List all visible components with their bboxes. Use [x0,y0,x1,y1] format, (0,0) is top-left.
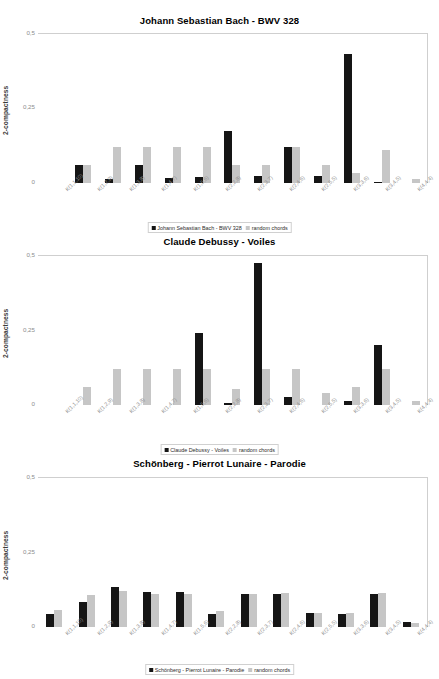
bar-series-schoenberg [38,478,427,627]
bar-group-last[interactable] [397,256,427,405]
bar-group-K3-3-6[interactable] [330,478,362,627]
bar-dark-K3-4-5[interactable] [344,54,352,183]
bar-dark-K2-2-8[interactable] [195,333,203,405]
bar-dark-K3-3-6[interactable] [314,176,322,183]
bar-light-K3-3-6[interactable] [346,613,354,627]
legend-swatch-dark-icon [164,448,168,452]
legend-swatch-light-icon [248,668,252,672]
bar-group-K1-3-8[interactable] [103,478,135,627]
bar-series-debussy [38,256,427,405]
bar-group-K1-3-8[interactable] [98,256,128,405]
bar-group-K2-5-5[interactable] [297,478,329,627]
bar-group-K2-4-6[interactable] [247,256,277,405]
bar-light-K1-5-6[interactable] [184,594,192,627]
bar-group-K1-5-6[interactable] [168,478,200,627]
x-axis-ticks-schoenberg: K(1,1,10) K(1,2,9) K(1,3,8) K(1,4,7) K(1… [38,630,427,664]
bar-light-K4-4-4[interactable] [382,369,390,405]
bar-dark-K2-5-5[interactable] [284,397,292,405]
legend-swatch-dark-icon [151,226,155,230]
bar-light-K4-4-4[interactable] [382,150,390,183]
bar-group-K2-3-7[interactable] [233,478,265,627]
bar-light-K1-2-9[interactable] [83,165,91,183]
legend-swatch-dark-icon [149,668,153,672]
bar-light-last[interactable] [412,179,420,183]
bar-dark-K4-4-4[interactable] [403,622,411,627]
bar-group-K4-4-4[interactable] [367,34,397,183]
bar-group-K2-3-7[interactable] [218,34,248,183]
bar-group-K4-4-4[interactable] [395,478,427,627]
bar-light-K1-2-9[interactable] [83,387,91,405]
bar-group-K2-2-8[interactable] [188,256,218,405]
bar-group-K1-1-10[interactable] [38,256,68,405]
legend-label-series: Johann Sebastian Bach - BWV 328 [157,225,242,231]
bar-dark-K2-4-6[interactable] [273,594,281,627]
bar-dark-K3-3-6[interactable] [338,614,346,627]
chart-panel-schoenberg: Schönberg - Pierrot Lunaire - Parodie 2-… [0,458,439,679]
legend-label-series: Claude Debussy - Voiles [170,447,229,453]
bar-light-K4-4-4[interactable] [411,623,419,627]
bar-group-K2-4-6[interactable] [247,34,277,183]
bar-dark-K4-4-4[interactable] [374,182,382,183]
bar-group-K1-3-8[interactable] [98,34,128,183]
bar-light-K1-2-9[interactable] [87,595,95,627]
bar-light-K1-1-10[interactable] [54,610,62,627]
bar-series-bach [38,34,427,183]
bar-group-K2-5-5[interactable] [277,34,307,183]
bar-dark-K1-1-10[interactable] [46,614,54,627]
bar-group-K3-4-5[interactable] [337,34,367,183]
bar-light-K2-3-7[interactable] [249,594,257,627]
bar-group-K3-3-6[interactable] [307,34,337,183]
bar-group-K2-2-8[interactable] [200,478,232,627]
bar-group-K4-4-4[interactable] [367,256,397,405]
bar-light-K2-2-8[interactable] [216,611,224,627]
bar-dark-K2-4-6[interactable] [254,263,262,405]
y-tick-0: 0 [32,623,35,629]
bar-group-K1-4-7[interactable] [128,34,158,183]
y-axis-label-bach: 2-compactness [2,86,9,135]
bar-light-K1-4-7[interactable] [151,594,159,627]
bar-group-K1-5-6[interactable] [158,34,188,183]
legend-item-series: Schönberg - Pierrot Lunaire - Parodie [149,667,245,673]
bar-group-K3-4-5[interactable] [362,478,394,627]
bar-dark-K3-4-5[interactable] [344,401,352,405]
plot-area-debussy [38,255,428,405]
bar-group-K1-2-9[interactable] [68,256,98,405]
bar-dark-K2-3-7[interactable] [224,131,232,183]
bar-group-last[interactable] [397,34,427,183]
x-axis-ticks-bach: K(1,1,10) K(1,2,9) K(1,3,8) K(1,4,7) K(1… [38,186,427,220]
legend-label-series: Schönberg - Pierrot Lunaire - Parodie [155,667,245,673]
bar-group-K3-4-5[interactable] [337,256,367,405]
bar-group-K1-1-10[interactable] [38,478,70,627]
bar-group-K2-4-6[interactable] [265,478,297,627]
bar-group-K1-5-6[interactable] [158,256,188,405]
bar-light-K2-5-5[interactable] [314,613,322,627]
bar-dark-K3-4-5[interactable] [370,594,378,627]
bar-dark-K4-4-4[interactable] [374,345,382,405]
y-tick-0_5: 0,5 [26,252,35,258]
y-tick-0_25: 0,25 [23,327,35,333]
bar-light-last[interactable] [412,401,420,405]
bar-group-K2-2-8[interactable] [188,34,218,183]
bar-light-K2-4-6[interactable] [281,593,289,627]
bar-light-K1-3-8[interactable] [113,147,121,183]
bar-dark-K2-5-5[interactable] [284,147,292,183]
bar-group-K2-3-7[interactable] [218,256,248,405]
y-axis-label-schoenberg: 2-compactness [2,531,9,580]
bar-group-K3-3-6[interactable] [307,256,337,405]
bar-light-K1-3-8[interactable] [119,591,127,627]
bar-group-K1-4-7[interactable] [135,478,167,627]
legend-label-random: random chords [254,667,290,673]
bar-light-K1-3-8[interactable] [113,369,121,405]
bar-group-K1-4-7[interactable] [128,256,158,405]
y-axis-ticks-debussy: 0,5 0,25 0 [13,236,35,414]
bar-group-K2-5-5[interactable] [277,256,307,405]
bar-group-K1-2-9[interactable] [70,478,102,627]
bar-group-K1-2-9[interactable] [68,34,98,183]
bar-dark-K2-2-8[interactable] [208,614,216,627]
chart-title-bach: Johann Sebastian Bach - BWV 328 [0,15,439,27]
bar-light-K3-4-5[interactable] [378,593,386,627]
bar-dark-K2-5-5[interactable] [306,613,314,627]
plot-area-bach [38,33,428,183]
y-tick-0_25: 0,25 [23,104,35,110]
bar-group-K1-1-10[interactable] [38,34,68,183]
